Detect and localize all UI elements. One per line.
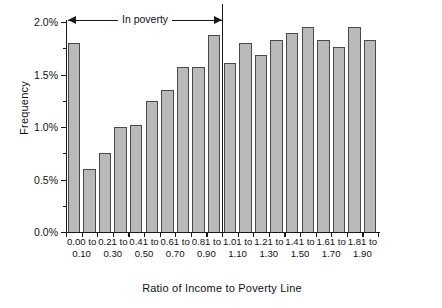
bar [161, 90, 173, 232]
bar [239, 43, 251, 232]
bar [208, 35, 220, 232]
y-axis-minor-tick [63, 153, 67, 154]
y-axis-tick-labels: 0.0%0.5%1.0%1.5%2.0% [14, 0, 58, 308]
bar [68, 43, 80, 232]
y-axis-tick-label: 1.5% [14, 70, 58, 80]
y-axis-tick [61, 75, 66, 76]
y-axis-minor-tick [63, 206, 67, 207]
annotation-arrowhead-right-icon [214, 16, 222, 24]
y-axis-minor-tick [63, 48, 67, 49]
y-axis-minor-tick [63, 101, 67, 102]
y-axis-tick [61, 180, 66, 181]
annotation-arrowhead-left-icon [68, 16, 76, 24]
bar [224, 63, 236, 232]
bar [192, 67, 204, 232]
y-axis-tick-label: 2.0% [14, 17, 58, 27]
poverty-threshold-line [222, 4, 223, 232]
bar [286, 33, 298, 233]
y-axis-tick [61, 127, 66, 128]
y-axis-tick-label: 0.0% [14, 227, 58, 237]
bar [364, 40, 376, 232]
bar [270, 40, 282, 232]
bar [302, 27, 314, 232]
x-axis-tick-label: 1.81 to1.90 [339, 236, 385, 259]
y-axis-tick-label: 0.5% [14, 175, 58, 185]
bar [83, 169, 95, 232]
bar [99, 153, 111, 232]
x-axis-tick-label-line1: 1.81 to [348, 236, 377, 247]
in-poverty-annotation: In poverty [66, 14, 378, 28]
plot-area [66, 22, 378, 232]
y-axis-tick-label: 1.0% [14, 122, 58, 132]
x-axis-tick-labels: 0.00 to0.100.21 to0.300.41 to0.500.61 to… [66, 236, 378, 266]
annotation-label: In poverty [118, 13, 172, 26]
bar [348, 27, 360, 232]
bar [114, 127, 126, 232]
bar [146, 101, 158, 232]
bar [333, 47, 345, 232]
bar [130, 125, 142, 232]
histogram-chart: Frequency 0.0%0.5%1.0%1.5%2.0% In povert… [0, 0, 442, 308]
bar [317, 40, 329, 232]
x-axis-title: Ratio of Income to Poverty Line [66, 282, 378, 294]
x-axis-tick-label-line2: 1.90 [339, 248, 385, 260]
bar [177, 67, 189, 232]
bar [255, 55, 267, 232]
